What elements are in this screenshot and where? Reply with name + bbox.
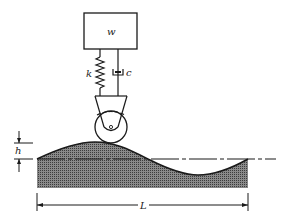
damper-label: c [126, 67, 132, 78]
wheel-icon [95, 111, 127, 143]
suspension-diagram: w k c h L [0, 0, 288, 224]
road-profile-terrain [37, 142, 248, 188]
mass-label: w [107, 26, 116, 37]
spring-label: k [86, 68, 92, 79]
damper-icon [113, 49, 123, 96]
axle-icon [109, 125, 112, 128]
height-label: h [15, 145, 21, 156]
length-label: L [139, 200, 147, 211]
spring-icon [96, 49, 104, 96]
